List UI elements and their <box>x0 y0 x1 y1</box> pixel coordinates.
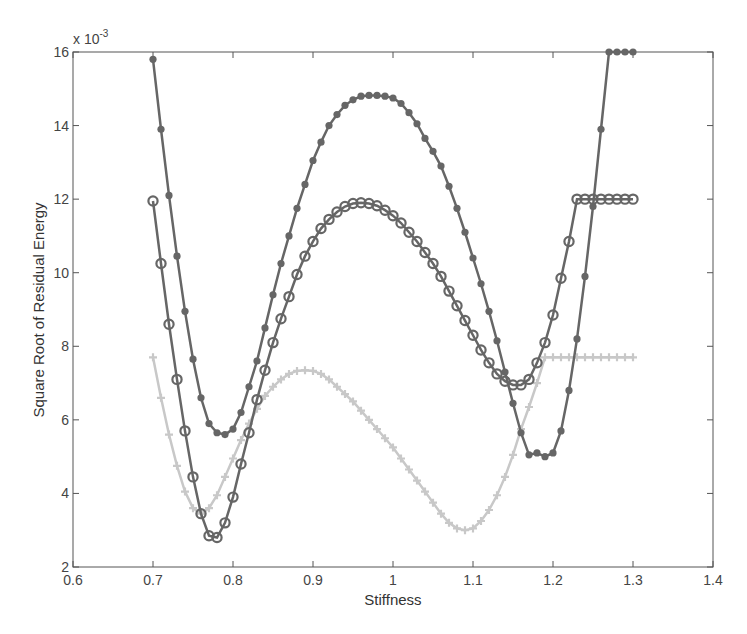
y-tick-label: 2 <box>61 559 69 575</box>
data-point <box>461 229 468 236</box>
y-tick-label: 4 <box>61 485 69 501</box>
data-point <box>277 260 284 267</box>
data-point <box>357 93 364 100</box>
data-point <box>317 139 324 146</box>
data-point <box>309 157 316 164</box>
data-point <box>221 431 228 438</box>
x-tick-label: 1.1 <box>463 572 483 588</box>
data-point <box>181 308 188 315</box>
data-point <box>341 102 348 109</box>
y-tick-label: 14 <box>53 118 69 134</box>
y-exponent-label: x 10-3 <box>73 28 109 47</box>
data-point <box>549 449 556 456</box>
y-tick-label: 8 <box>61 338 69 354</box>
y-tick-label: 10 <box>53 265 69 281</box>
x-tick-label: 0.7 <box>143 572 163 588</box>
data-point <box>397 100 404 107</box>
x-tick-label: 0.9 <box>303 572 323 588</box>
data-point <box>581 273 588 280</box>
data-point <box>477 280 484 287</box>
data-point <box>445 183 452 190</box>
data-point <box>165 192 172 199</box>
data-point <box>573 335 580 342</box>
data-point <box>197 394 204 401</box>
data-point <box>469 254 476 261</box>
data-point <box>421 135 428 142</box>
data-point <box>261 324 268 331</box>
data-point <box>453 205 460 212</box>
data-point <box>269 291 276 298</box>
y-tick-label: 16 <box>53 44 69 60</box>
data-point <box>405 109 412 116</box>
y-tick-label: 6 <box>61 412 69 428</box>
data-point <box>613 48 620 55</box>
data-point <box>237 409 244 416</box>
data-point <box>301 181 308 188</box>
data-point <box>253 357 260 364</box>
data-point <box>493 337 500 344</box>
data-point <box>213 429 220 436</box>
data-point <box>629 48 636 55</box>
data-point <box>157 126 164 133</box>
x-tick-label: 1 <box>389 572 397 588</box>
data-point <box>381 93 388 100</box>
data-point <box>333 111 340 118</box>
plot-area <box>73 52 713 567</box>
data-point <box>541 453 548 460</box>
data-point <box>517 429 524 436</box>
data-point <box>389 94 396 101</box>
data-point <box>533 449 540 456</box>
data-point <box>325 122 332 129</box>
data-point <box>525 451 532 458</box>
data-point <box>605 48 612 55</box>
x-axis-label: Stiffness <box>364 591 421 608</box>
data-point <box>149 56 156 63</box>
x-tick-label: 0.8 <box>223 572 243 588</box>
y-tick-label: 12 <box>53 191 69 207</box>
data-point <box>413 120 420 127</box>
data-point <box>557 427 564 434</box>
data-point <box>205 420 212 427</box>
line-chart: 0.60.70.80.911.11.21.31.4 246810121416 x… <box>0 0 747 634</box>
data-point <box>437 162 444 169</box>
data-point <box>189 356 196 363</box>
data-point <box>173 253 180 260</box>
data-point <box>285 232 292 239</box>
data-point <box>589 203 596 210</box>
data-point <box>501 368 508 375</box>
data-point <box>597 126 604 133</box>
x-tick-label: 1.2 <box>543 572 563 588</box>
data-point <box>349 96 356 103</box>
x-tick-label: 1.4 <box>703 572 723 588</box>
data-point <box>429 148 436 155</box>
data-point <box>293 205 300 212</box>
data-point <box>245 383 252 390</box>
data-point <box>565 387 572 394</box>
data-point <box>365 92 372 99</box>
data-point <box>621 48 628 55</box>
x-tick-label: 1.3 <box>623 572 643 588</box>
data-point <box>509 400 516 407</box>
data-point <box>485 308 492 315</box>
data-point <box>373 92 380 99</box>
y-axis-label: Square Root of Residual Energy <box>30 202 47 418</box>
data-point <box>229 425 236 432</box>
